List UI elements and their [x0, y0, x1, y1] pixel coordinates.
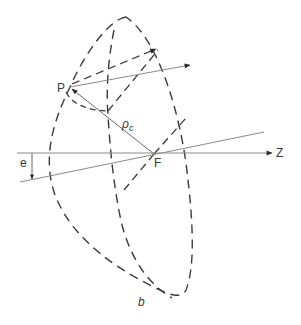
paraboloid-diagram — [0, 0, 301, 325]
reflector-outline — [49, 17, 192, 295]
reflected-ray — [70, 65, 190, 87]
rho-c-vector — [72, 89, 154, 154]
label-f: F — [154, 157, 161, 169]
label-rho-c: ρc — [122, 118, 133, 131]
rho-subscript: c — [129, 123, 134, 133]
label-e: e — [20, 157, 27, 169]
label-p: P — [57, 82, 65, 94]
panel-label: b — [138, 296, 145, 308]
label-z: Z — [276, 147, 283, 159]
label-e-text: e — [20, 156, 27, 170]
rho-symbol: ρ — [122, 117, 129, 131]
tilted-axis — [20, 132, 264, 182]
